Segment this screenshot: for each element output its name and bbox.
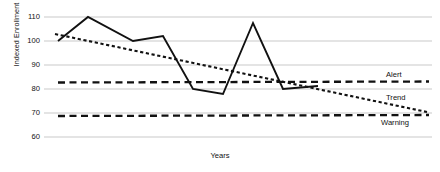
y-tick-label-80: 80 (18, 84, 40, 93)
chart-canvas (0, 0, 440, 172)
gridlines (44, 17, 432, 137)
series-label-warning: Warning (381, 118, 409, 127)
series-label-alert: Alert (386, 70, 402, 79)
series-warning-line (58, 115, 429, 116)
chart-figure: Indexed Enrollment 110 100 90 80 70 60 A… (0, 0, 440, 172)
y-tick-label-60: 60 (18, 132, 40, 141)
y-tick-label-90: 90 (18, 60, 40, 69)
y-tick-label-110: 110 (18, 12, 40, 21)
series-alert-line (58, 82, 429, 83)
series-trend-line (55, 34, 427, 112)
y-tick-label-70: 70 (18, 108, 40, 117)
series-label-trend: Trend (386, 93, 406, 102)
y-tick-label-100: 100 (18, 36, 40, 45)
x-axis-title: Years (0, 151, 440, 160)
